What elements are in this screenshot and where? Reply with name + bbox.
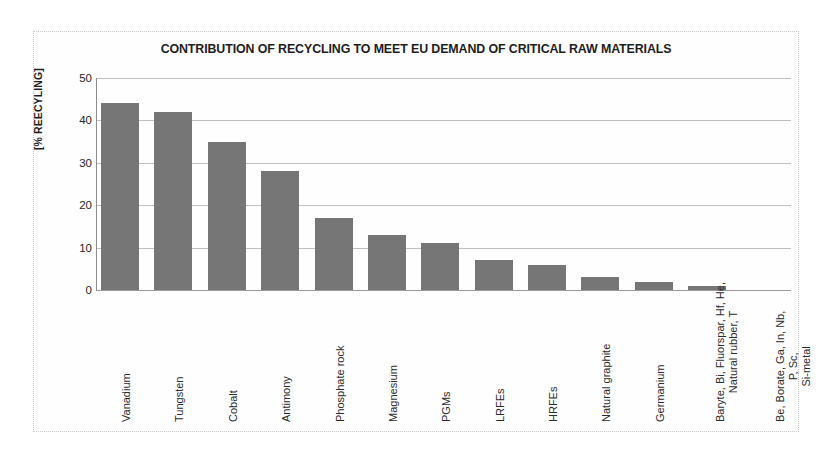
x-tick-label: Antimony (280, 376, 293, 422)
x-tick-label: Cobalt (227, 390, 240, 422)
gridline-50 (97, 78, 791, 79)
y-tick-label-30: 30 (58, 157, 92, 169)
x-axis-tick-labels: VanadiumTungstenCobaltAntimonyPhosphate … (97, 294, 791, 429)
y-axis-tick-labels: 01020304050 (50, 78, 92, 290)
x-tick-label-line: HRFEs (547, 387, 560, 422)
x-tick-label-line: Be, Borate, Ga, In, Nb, (774, 311, 787, 422)
chart-title: CONTRIBUTION OF RECYCLING TO MEET EU DEM… (34, 42, 798, 56)
x-tick-label-line: Vanadium (120, 373, 133, 422)
bar (261, 171, 299, 290)
x-tick-label-line: Baryte, Bi, Fluorspar, Hf, He, (714, 282, 727, 422)
y-tick-label-0: 0 (58, 284, 92, 296)
gridline-20 (97, 205, 791, 206)
x-tick-label-line: Antimony (280, 376, 293, 422)
plot-area (97, 78, 791, 290)
y-axis-title: [% REECYLING] (32, 68, 44, 150)
x-tick-label: Vanadium (120, 373, 133, 422)
bar (635, 282, 673, 290)
bar (581, 277, 619, 290)
bar (101, 103, 139, 290)
x-tick-label-line: Natural rubber, T (727, 282, 740, 422)
x-tick-label-line: Magnesium (387, 365, 400, 422)
x-tick-label: PGMs (440, 391, 453, 422)
x-tick-label: Tungsten (173, 377, 186, 422)
x-tick-label: Phosphate rock (334, 346, 347, 422)
x-tick-label-line: LRFEs (494, 388, 507, 422)
bar (475, 260, 513, 290)
bar (315, 218, 353, 290)
x-tick-label: Magnesium (387, 365, 400, 422)
y-tick-label-40: 40 (58, 114, 92, 126)
x-tick-label-line: Natural graphite (600, 344, 613, 422)
x-tick-label-line: Tungsten (173, 377, 186, 422)
x-tick-label: Germanium (654, 365, 667, 422)
x-tick-label-line: PGMs (440, 391, 453, 422)
gridline-30 (97, 163, 791, 164)
x-tick-label: Natural graphite (600, 344, 613, 422)
y-tick-label-10: 10 (58, 242, 92, 254)
x-tick-label-line: Cobalt (227, 390, 240, 422)
x-tick-label-line: Phosphate rock (334, 346, 347, 422)
bar (208, 142, 246, 290)
gridline-40 (97, 120, 791, 121)
x-tick-label-line: Si-metal (800, 311, 813, 422)
x-tick-label: HRFEs (547, 387, 560, 422)
y-tick-label-50: 50 (58, 72, 92, 84)
x-tick-label: Be, Borate, Ga, In, Nb,P, Sc,Si-metal (774, 311, 813, 422)
x-tick-label: LRFEs (494, 388, 507, 422)
bar (421, 243, 459, 290)
bar (528, 265, 566, 290)
gridline-0 (97, 290, 791, 291)
x-tick-label-line: Germanium (654, 365, 667, 422)
bar (154, 112, 192, 290)
bar (368, 235, 406, 290)
chart-figure: CONTRIBUTION OF RECYCLING TO MEET EU DEM… (33, 31, 799, 432)
x-tick-label: Baryte, Bi, Fluorspar, Hf, He,Natural ru… (714, 282, 740, 422)
x-tick-label-line: P, Sc, (787, 311, 800, 422)
y-tick-label-20: 20 (58, 199, 92, 211)
